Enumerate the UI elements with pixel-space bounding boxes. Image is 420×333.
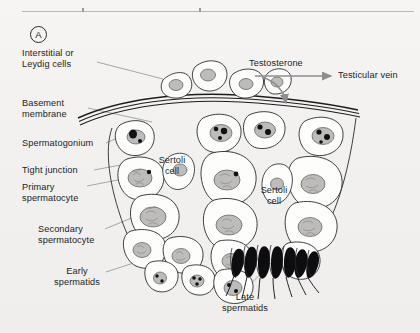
label-tight-junction: Tight junction xyxy=(22,165,78,176)
label-interstitial-leydig: Interstitial or Leydig cells xyxy=(22,48,74,71)
label-testosterone: Testosterone xyxy=(249,58,303,69)
label-sertoli-cell-right: Sertoli cell xyxy=(252,185,296,208)
label-late-spermatids: Late spermatids xyxy=(212,292,278,315)
label-sertoli-cell-left: Sertoli cell xyxy=(150,155,194,178)
label-spermatogonium: Spermatogonium xyxy=(22,138,93,149)
spermatogonia xyxy=(115,112,343,156)
label-testicular-vein: Testicular vein xyxy=(338,70,398,81)
label-secondary-spermatocyte: Secondary spermatocyte xyxy=(38,224,94,247)
label-basement-membrane: Basement membrane xyxy=(22,98,67,121)
label-early-spermatids: Early spermatids xyxy=(46,266,108,289)
label-primary-spermatocyte: Primary spermatocyte xyxy=(22,182,78,205)
figure-page: A xyxy=(0,0,420,333)
